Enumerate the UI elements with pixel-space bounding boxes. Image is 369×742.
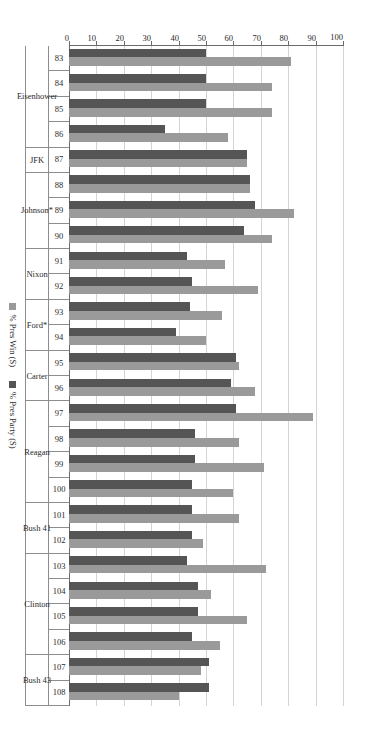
plot-area <box>69 46 343 706</box>
category-tick: 107 <box>49 655 69 680</box>
value-tick-label: 20 <box>115 34 124 43</box>
value-tick-label: 50 <box>198 34 207 43</box>
category-label: 98 <box>55 434 64 444</box>
bar-pres-win <box>69 616 247 625</box>
bar-pres-party <box>69 328 176 337</box>
plot-frame: 0102030405060708090100 83848586878889909… <box>0 0 369 742</box>
bar-pres-win <box>69 311 222 320</box>
category-label: 101 <box>53 510 66 520</box>
category-tick: 93 <box>49 300 69 325</box>
category-tick: 87 <box>49 148 69 173</box>
category-tick: 99 <box>49 452 69 477</box>
category-label: 94 <box>55 332 64 342</box>
legend-label: % Pres Win (S) <box>8 314 18 367</box>
bar-group <box>69 681 343 706</box>
bar-pres-party <box>69 302 190 311</box>
bar-group <box>69 427 343 452</box>
group-band-label: JFK <box>30 155 44 165</box>
bar-pres-win <box>69 387 255 396</box>
category-label: 99 <box>55 459 64 469</box>
bar-group <box>69 148 343 173</box>
bar-group <box>69 503 343 528</box>
group-band: Bush 41 <box>26 503 48 554</box>
category-tick: 86 <box>49 122 69 147</box>
bar-group <box>69 224 343 249</box>
category-label: 96 <box>55 383 64 393</box>
bar-pres-win <box>69 463 264 472</box>
group-band-label: Reagan <box>24 447 50 457</box>
chart-figure: 0102030405060708090100 83848586878889909… <box>0 0 369 742</box>
bar-pres-party <box>69 404 236 413</box>
bar-group <box>69 274 343 299</box>
bar-pres-party <box>69 99 206 108</box>
category-label: 87 <box>55 155 64 165</box>
bar-group <box>69 71 343 96</box>
bar-pres-party <box>69 480 192 489</box>
category-tick: 102 <box>49 528 69 553</box>
category-tick: 100 <box>49 478 69 503</box>
category-label: 107 <box>53 662 66 672</box>
bar-pres-party <box>69 455 195 464</box>
bar-pres-win <box>69 184 250 193</box>
category-label: 108 <box>53 688 66 698</box>
bar-pres-win <box>69 413 313 422</box>
bar-pres-win <box>69 438 239 447</box>
bar-pres-win <box>69 133 228 142</box>
bar-pres-win <box>69 641 220 650</box>
category-tick: 98 <box>49 427 69 452</box>
chart-legend: % Pres Win (S)% Pres Party (S) <box>5 46 21 706</box>
bar-pres-win <box>69 362 239 371</box>
category-tick: 106 <box>49 630 69 655</box>
category-tick: 108 <box>49 681 69 706</box>
category-tick: 96 <box>49 376 69 401</box>
category-tick: 103 <box>49 554 69 579</box>
group-band: Clinton <box>26 554 48 656</box>
category-label: 97 <box>55 409 64 419</box>
bar-pres-win <box>69 514 239 523</box>
bar-pres-win <box>69 209 294 218</box>
bar-pres-party <box>69 150 247 159</box>
bar-pres-party <box>69 582 198 591</box>
bar-pres-party <box>69 658 209 667</box>
value-tick-label: 100 <box>330 34 343 43</box>
bar-pres-win <box>69 539 203 548</box>
bar-group <box>69 579 343 604</box>
category-label: 86 <box>55 129 64 139</box>
category-label: 100 <box>53 485 66 495</box>
value-tick-label: 90 <box>307 34 316 43</box>
bar-pres-win <box>69 489 233 498</box>
group-band-label: Ford* <box>27 320 47 330</box>
bar-pres-win <box>69 286 258 295</box>
bar-group <box>69 376 343 401</box>
bar-pres-win <box>69 590 211 599</box>
group-band-label: Clinton <box>24 599 50 609</box>
bar-group <box>69 554 343 579</box>
bar-pres-win <box>69 260 225 269</box>
category-label: 88 <box>55 180 64 190</box>
category-label: 91 <box>55 256 64 266</box>
bar-pres-party <box>69 683 209 692</box>
group-band: JFK <box>26 148 48 173</box>
category-tick: 91 <box>49 249 69 274</box>
legend-swatch-icon <box>10 303 17 310</box>
group-band: Carter <box>26 351 48 402</box>
group-band: Johnson* <box>26 173 48 249</box>
bar-pres-party <box>69 175 250 184</box>
bar-pres-win <box>69 565 266 574</box>
group-band-label: Carter <box>26 370 47 380</box>
category-tick: 83 <box>49 46 69 71</box>
group-band: Ford* <box>26 300 48 351</box>
value-tick-label: 80 <box>280 34 289 43</box>
bar-pres-party <box>69 201 255 210</box>
bar-group <box>69 401 343 426</box>
bar-pres-party <box>69 277 192 286</box>
bar-pres-party <box>69 125 165 134</box>
category-label: 93 <box>55 307 64 317</box>
category-tick: 90 <box>49 224 69 249</box>
bar-pres-party <box>69 505 192 514</box>
group-band-label: Johnson* <box>21 205 53 215</box>
bar-pres-party <box>69 556 187 565</box>
category-label: 83 <box>55 53 64 63</box>
value-tick-label: 30 <box>143 34 152 43</box>
bar-group <box>69 604 343 629</box>
